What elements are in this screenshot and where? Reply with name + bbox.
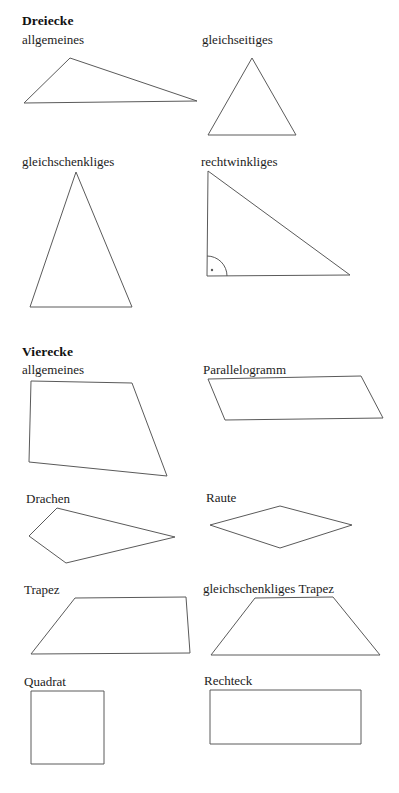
figure-rechteck (210, 690, 361, 744)
label-allgemeines-viereck: allgemeines (22, 363, 84, 376)
figure-allgemeines-viereck (29, 381, 167, 476)
label-rechteck: Rechteck (204, 674, 252, 687)
figure-rechtwinkliges-dreieck (207, 171, 350, 276)
label-gleichschenkliges-trapez: gleichschenkliges Trapez (203, 582, 334, 595)
figure-trapez (31, 597, 190, 654)
label-gleichschenkliges-dreieck: gleichschenkliges (22, 155, 114, 168)
label-drachen: Drachen (26, 492, 70, 505)
figure-gleichseitiges-dreieck (208, 58, 296, 135)
label-parallelogramm: Parallelogramm (203, 363, 286, 376)
right-angle-dot-icon (211, 269, 213, 271)
label-gleichseitiges-dreieck: gleichseitiges (202, 33, 273, 46)
figure-drachen (29, 508, 175, 563)
geometry-reference-sheet: Dreiecke allgemeines gleichseitiges glei… (0, 0, 399, 793)
label-raute: Raute (206, 491, 236, 504)
figure-allgemeines-dreieck (24, 58, 197, 103)
section-heading-dreiecke: Dreiecke (22, 14, 74, 28)
figure-quadrat (31, 691, 104, 764)
figure-gleichschenkliges-dreieck (30, 172, 132, 307)
label-quadrat: Quadrat (24, 675, 66, 688)
figure-gleichschenkliges-trapez (211, 597, 380, 655)
right-angle-arc-icon (207, 256, 227, 276)
label-rechtwinkliges-dreieck: rechtwinkliges (201, 155, 278, 168)
figure-parallelogramm (208, 376, 383, 420)
section-heading-vierecke: Vierecke (22, 345, 73, 359)
label-trapez: Trapez (24, 583, 60, 596)
label-allgemeines-dreieck: allgemeines (22, 33, 84, 46)
figure-raute (210, 506, 352, 548)
